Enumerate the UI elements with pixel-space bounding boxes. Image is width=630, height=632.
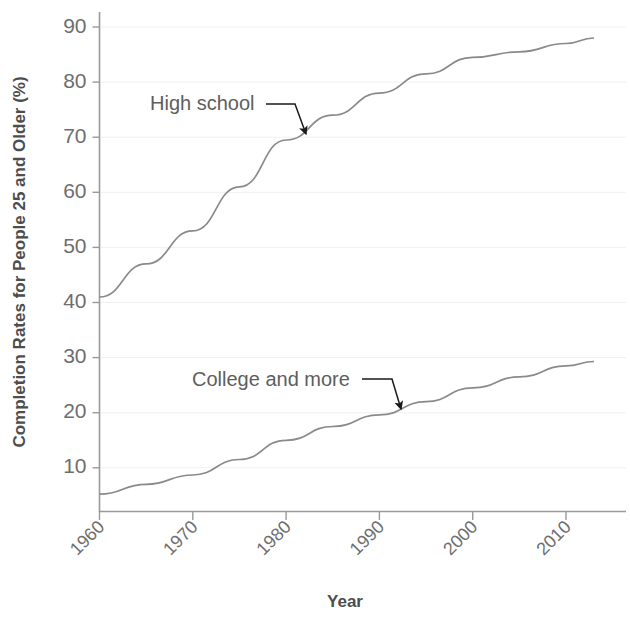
y-axis-tick-label: 50 xyxy=(63,234,86,257)
x-axis-title: Year xyxy=(327,592,363,611)
y-axis-tick-labels: 102030405060708090 xyxy=(63,14,86,478)
y-axis-tick-label: 80 xyxy=(63,69,86,92)
series-annotations: High schoolCollege and more xyxy=(150,92,401,409)
x-axis-tick-label: 2000 xyxy=(439,517,481,559)
y-axis-title: Completion Rates for People 25 and Older… xyxy=(10,76,29,447)
x-axis-tick-label: 1970 xyxy=(159,517,201,559)
y-axis-tick-label: 20 xyxy=(63,399,86,422)
series-annotation-arrow xyxy=(362,379,401,409)
y-axis-tick-label: 30 xyxy=(63,344,86,367)
x-axis-tick-labels: 196019701980199020002010 xyxy=(66,517,575,559)
chart-container: 102030405060708090 196019701980199020002… xyxy=(0,0,630,632)
y-axis-tick-label: 10 xyxy=(63,454,86,477)
y-axis-tick-label: 40 xyxy=(63,289,86,312)
series-line-high-school xyxy=(100,38,595,297)
series-annotation-arrow xyxy=(266,104,306,134)
x-axis-tick-label: 1960 xyxy=(66,517,108,559)
y-axis-ticks xyxy=(93,27,100,468)
x-axis-tick-label: 2010 xyxy=(532,517,574,559)
series-annotation-label: College and more xyxy=(192,368,350,390)
y-axis-tick-label: 70 xyxy=(63,124,86,147)
x-axis-tick-label: 1980 xyxy=(252,517,294,559)
line-chart: 102030405060708090 196019701980199020002… xyxy=(0,0,630,632)
y-axis-tick-label: 90 xyxy=(63,14,86,37)
x-axis-ticks xyxy=(100,512,567,521)
y-axis-tick-label: 60 xyxy=(63,179,86,202)
x-axis-tick-label: 1990 xyxy=(346,517,388,559)
series-annotation-label: High school xyxy=(150,92,255,114)
